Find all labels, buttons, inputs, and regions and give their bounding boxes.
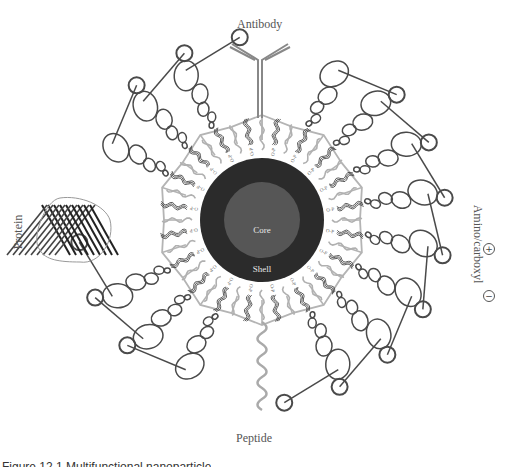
linker-label: O-P — [289, 277, 297, 287]
linker-label: O-P — [307, 167, 316, 176]
linker-label: O-P — [195, 247, 205, 255]
linker-label: O-P — [326, 228, 335, 234]
linker-label: O-P — [319, 248, 329, 256]
core-circle — [224, 182, 300, 258]
core-label: Core — [253, 225, 271, 235]
peptide-icon — [258, 322, 267, 410]
linker-label: O-P — [196, 184, 206, 192]
linker-label: O-P — [290, 154, 298, 164]
linker-label: O-P — [270, 147, 276, 156]
linker-label: O-P — [189, 206, 198, 212]
linker-label: O-P — [208, 264, 217, 273]
linker-label: O-P — [209, 166, 218, 175]
figure-caption: Figure 12.1 Multifunctional nanoparticle — [2, 458, 211, 467]
linker-label: O-P — [269, 284, 275, 293]
linker-label: O-P — [226, 277, 234, 287]
amino-carboxyl-label: Amino/carboxyl — [470, 205, 485, 284]
linker-label: O-P — [319, 185, 329, 193]
linker-label: O-P — [249, 147, 255, 156]
linker-label: O-P — [248, 284, 254, 293]
shell-label: Shell — [253, 264, 272, 274]
linker-label: O-P — [227, 153, 235, 163]
protein-label: Protein — [11, 215, 26, 250]
positive-charge-icon: + — [483, 243, 495, 255]
negative-charge-icon: − — [483, 290, 495, 302]
peptide-label: Peptide — [236, 431, 272, 446]
linker-label: O-P — [189, 227, 198, 233]
linker-label: O-P — [306, 265, 315, 274]
antibody-icon — [230, 44, 290, 118]
nanoparticle-diagram: O-PO-PO-PO-PO-PO-PO-PO-PO-PO-PO-PO-PO-PO… — [0, 0, 516, 467]
antibody-label: Antibody — [237, 17, 282, 32]
linker-label: O-P — [326, 207, 335, 213]
